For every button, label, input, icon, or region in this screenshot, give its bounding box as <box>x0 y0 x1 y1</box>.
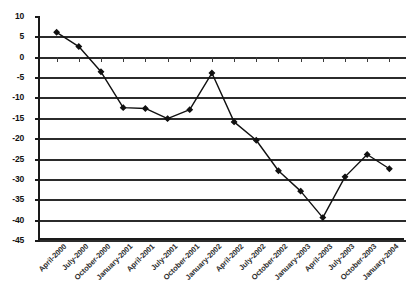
data-series <box>40 16 406 240</box>
y-axis-tick-label: 5 <box>0 32 24 41</box>
line-chart: 1050-5-10-15-20-25-30-35-40-45 April-200… <box>0 0 414 293</box>
data-point-marker <box>165 116 170 121</box>
y-axis-tick-label: 10 <box>0 12 24 21</box>
y-axis-tick-label: -40 <box>0 216 24 225</box>
y-axis-tick-label: -25 <box>0 155 24 164</box>
y-axis-tick-label: -5 <box>0 73 24 82</box>
y-axis-tick-label: -30 <box>0 175 24 184</box>
x-axis-labels: April-2000July-2000October-2000January-2… <box>38 242 404 293</box>
y-axis-tick-label: -15 <box>0 114 24 123</box>
y-axis-tick-label: 0 <box>0 53 24 62</box>
series-line <box>57 32 390 217</box>
y-axis-tick-label: -35 <box>0 195 24 204</box>
y-axis-tick-label: -20 <box>0 134 24 143</box>
y-axis-tick-label: -10 <box>0 93 24 102</box>
data-point-marker <box>143 106 148 111</box>
y-axis-tick-label: -45 <box>0 236 24 245</box>
plot-area: 1050-5-10-15-20-25-30-35-40-45 <box>38 16 404 240</box>
